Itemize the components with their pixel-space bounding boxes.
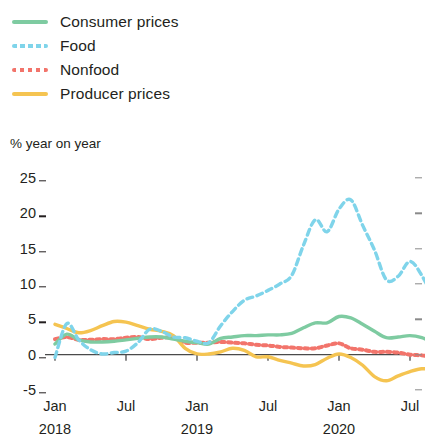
x-axis-year-label: 2020 — [323, 421, 355, 437]
y-axis-tick-label: 20 — [6, 205, 36, 221]
x-axis-year-label: 2018 — [39, 421, 71, 437]
x-axis-tick-label: Jul — [401, 398, 420, 414]
series-lines — [0, 0, 425, 445]
y-axis-tick-mark — [39, 357, 46, 358]
series-line-consumer-prices — [55, 316, 425, 344]
y-axis-tick-mark-right — [415, 389, 422, 390]
y-axis-tick-label: 25 — [6, 170, 36, 186]
y-axis-tick-label: 5 — [6, 311, 36, 327]
plot-area: 2520151050-5 Jan2018JulJan2019JulJan2020… — [0, 0, 425, 445]
y-axis-tick-mark-right — [415, 354, 422, 355]
series-line-food — [55, 199, 425, 357]
y-axis-tick-mark — [39, 286, 46, 287]
y-axis-tick-mark — [39, 392, 46, 393]
y-axis-tick-mark — [39, 322, 46, 323]
y-axis-tick-label: -5 — [6, 382, 36, 398]
y-axis-tick-mark-right — [415, 213, 422, 214]
x-axis-tick-label: Jul — [259, 398, 278, 414]
y-axis-tick-mark-right — [415, 283, 422, 284]
y-axis-tick-mark-right — [415, 319, 422, 320]
y-axis-tick-mark — [39, 180, 46, 181]
y-axis-tick-mark-right — [415, 177, 422, 178]
y-axis-tick-mark — [39, 216, 46, 217]
y-axis-tick-mark-right — [415, 248, 422, 249]
x-axis-tick-label: Jan — [327, 398, 350, 414]
y-axis-tick-label: 15 — [6, 241, 36, 257]
x-axis-tick-label: Jan — [43, 398, 66, 414]
x-axis-year-label: 2019 — [181, 421, 213, 437]
x-axis-tick-label: Jan — [185, 398, 208, 414]
x-axis-tick-label: Jul — [117, 398, 136, 414]
y-axis-tick-label: 0 — [6, 347, 36, 363]
y-axis-tick-label: 10 — [6, 276, 36, 292]
y-axis-tick-mark — [39, 251, 46, 252]
price-inflation-line-chart: Consumer prices Food Nonfood Producer pr… — [0, 0, 425, 445]
